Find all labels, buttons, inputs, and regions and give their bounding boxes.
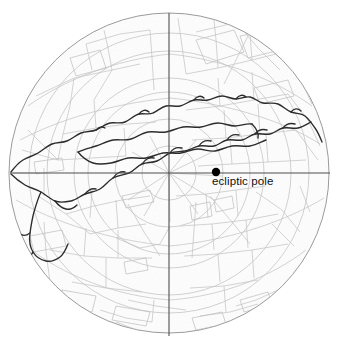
sky-chart-canvas xyxy=(0,0,343,352)
sky-chart-figure: ecliptic pole xyxy=(0,0,343,352)
ecliptic-pole-label: ecliptic pole xyxy=(212,175,273,188)
